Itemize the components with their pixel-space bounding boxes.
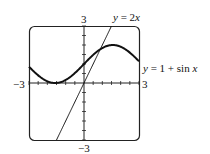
x-max-label: 3 — [142, 79, 148, 90]
line-label: y = 2x — [113, 12, 140, 23]
sine-label: y = 1 + sin x — [143, 63, 197, 74]
y-min-label: −3 — [78, 143, 90, 154]
graph-window — [0, 0, 210, 154]
x-min-label: −3 — [13, 79, 25, 90]
y-max-label: 3 — [81, 14, 87, 25]
